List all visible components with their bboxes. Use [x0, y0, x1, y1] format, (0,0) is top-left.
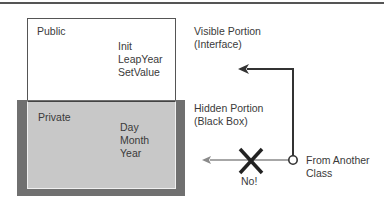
connectors [0, 0, 384, 204]
circle-node-icon [289, 156, 297, 164]
x-cross-icon [240, 149, 262, 173]
arrow-left-icon [238, 64, 293, 156]
